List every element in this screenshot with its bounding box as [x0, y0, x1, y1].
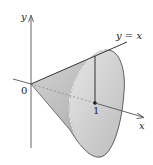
y-axis — [29, 15, 34, 148]
line-label: y = x — [116, 31, 142, 41]
x-axis-label: x — [139, 121, 145, 131]
origin-label: 0 — [21, 86, 27, 96]
cone-solid — [31, 50, 124, 157]
cone-diagram: y x 0 y = x 1 — [0, 0, 153, 165]
y-axis-label: y — [21, 12, 27, 22]
cone-diagram-svg — [0, 0, 153, 165]
tick-label-1: 1 — [93, 106, 99, 116]
x-axis-back-segment — [13, 79, 31, 84]
